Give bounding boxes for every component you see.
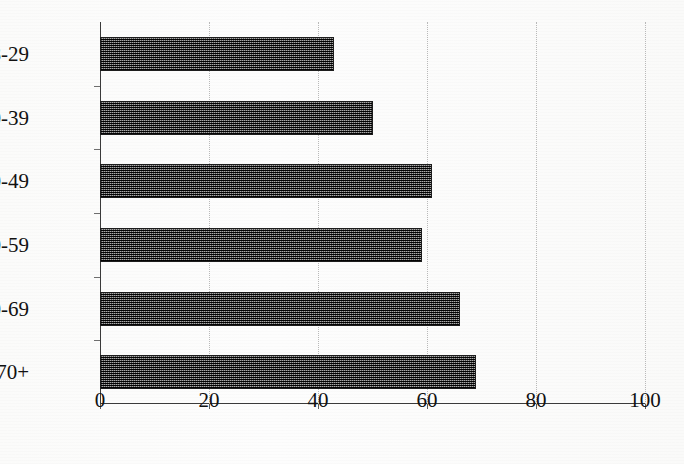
category-label: 60-69 [0,296,29,321]
gridline-40 [318,22,319,404]
bar [100,164,432,198]
y-tick [94,213,100,214]
bar-chart: 020406080100 18-2930-3940-4950-5960-6970… [0,0,684,464]
bar [100,355,476,389]
x-tick-label: 80 [526,388,547,413]
gridline-60 [427,22,428,404]
bar [100,292,460,326]
bar [100,101,373,135]
gridline-80 [536,22,537,404]
category-label: 70+ [0,360,29,385]
category-label: 18-29 [0,41,29,66]
y-tick [94,277,100,278]
plot-area [100,22,645,404]
bar [100,228,422,262]
y-axis-line [100,22,101,404]
x-tick-label: 0 [95,388,106,413]
y-tick [94,86,100,87]
x-tick-label: 60 [417,388,438,413]
x-tick-label: 20 [199,388,220,413]
x-axis-line [100,403,645,404]
y-tick [94,149,100,150]
x-tick-label: 40 [308,388,329,413]
y-tick [94,340,100,341]
bar [100,37,334,71]
category-label: 50-59 [0,232,29,257]
x-tick-label: 100 [629,388,661,413]
gridline-100 [645,22,646,404]
gridline-20 [209,22,210,404]
category-label: 30-39 [0,105,29,130]
category-label: 40-49 [0,169,29,194]
